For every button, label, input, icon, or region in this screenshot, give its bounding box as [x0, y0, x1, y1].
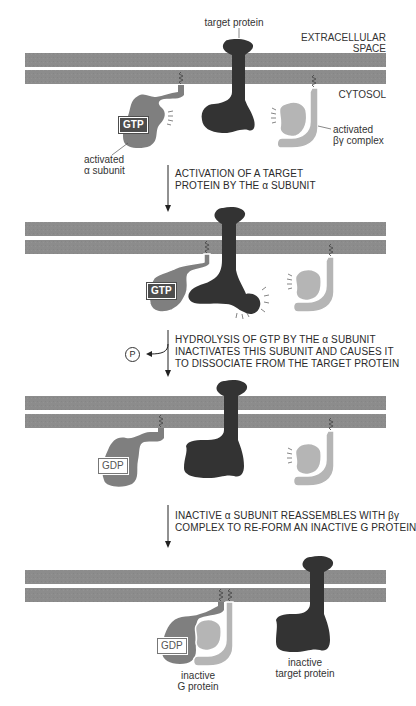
gtp-badge-panel-1: GTP	[119, 117, 148, 133]
step-arrow-1	[165, 165, 171, 212]
extracellular-label: EXTRACELLULAR SPACE	[301, 32, 386, 54]
step-2-line-2: INACTIVATES THIS SUBUNIT AND CAUSES IT	[175, 346, 399, 358]
membrane-inner-leaflet	[25, 70, 386, 84]
step-3-line-2: COMPLEX TO RE-FORM AN INACTIVE G PROTEIN	[175, 522, 416, 534]
bg-leader	[318, 126, 331, 129]
step-1-line-2: PROTEIN BY THE α SUBUNIT	[175, 180, 316, 192]
membrane-outer-leaflet	[25, 396, 386, 410]
activated-bg-line-1: activated	[333, 124, 384, 135]
cytosol-text: CYTOSOL	[338, 89, 386, 100]
inactive-target-label: inactive target protein	[270, 657, 340, 679]
panel-2-target-activation	[25, 207, 386, 319]
beta-subunit-body	[295, 443, 321, 474]
beta-subunit-body	[295, 269, 321, 300]
beta-subunit-body	[195, 619, 221, 650]
gtp-badge-panel-2: GTP	[147, 283, 176, 299]
step-2-line-1: HYDROLYSIS OF GTP BY THE α SUBUNIT	[175, 334, 399, 346]
inactive-g-protein-label: inactive G protein	[168, 670, 228, 692]
gdp-badge-panel-3: GDP	[98, 458, 128, 474]
target-protein-text: target protein	[205, 17, 264, 28]
phosphate-icon: P	[125, 347, 140, 362]
step-2-text: HYDROLYSIS OF GTP BY THE α SUBUNIT INACT…	[175, 334, 399, 370]
activated-alpha-label: activated α subunit	[84, 154, 125, 176]
step-1-text: ACTIVATION OF A TARGET PROTEIN BY THE α …	[175, 168, 316, 192]
activation-rays-bg	[271, 108, 276, 123]
inactive-g-line-1: inactive	[168, 670, 228, 681]
membrane-outer-leaflet	[25, 222, 386, 236]
step-2-line-3: TO DISSOCIATE FROM THE TARGET PROTEIN	[175, 358, 399, 370]
beta-subunit-body	[279, 102, 306, 137]
step-1-line-1: ACTIVATION OF A TARGET	[175, 168, 316, 180]
panel-3-hydrolysis	[25, 380, 386, 487]
inactive-g-line-2: G protein	[168, 681, 228, 692]
extracellular-line-2: SPACE	[301, 43, 386, 54]
membrane-outer-leaflet	[25, 53, 386, 67]
step-3-line-1: INACTIVE α SUBUNIT REASSEMBLES WITH βγ	[175, 510, 416, 522]
activation-rays	[167, 111, 173, 125]
phosphate-release-arrow	[150, 344, 168, 354]
activated-bg-line-2: βγ complex	[333, 135, 384, 146]
extracellular-line-1: EXTRACELLULAR	[301, 32, 386, 43]
membrane-outer-leaflet	[25, 570, 386, 584]
activation-rays-bg	[287, 274, 292, 289]
activation-rays-bg	[287, 448, 292, 463]
activated-alpha-line-2: α subunit	[84, 165, 125, 176]
activated-bg-label: activated βγ complex	[333, 124, 384, 146]
step-arrow-2	[146, 330, 171, 377]
gdp-badge-panel-4: GDP	[157, 638, 187, 654]
step-3-text: INACTIVE α SUBUNIT REASSEMBLES WITH βγ C…	[175, 510, 416, 534]
inactive-target-line-2: target protein	[270, 668, 340, 679]
activated-alpha-line-1: activated	[84, 154, 125, 165]
membrane-inner-leaflet	[25, 588, 386, 602]
panel-4-reassembly	[25, 556, 386, 666]
cytosol-label: CYTOSOL	[338, 89, 386, 100]
inactive-target-line-1: inactive	[270, 657, 340, 668]
step-arrow-3	[165, 505, 171, 548]
target-protein	[184, 380, 247, 478]
